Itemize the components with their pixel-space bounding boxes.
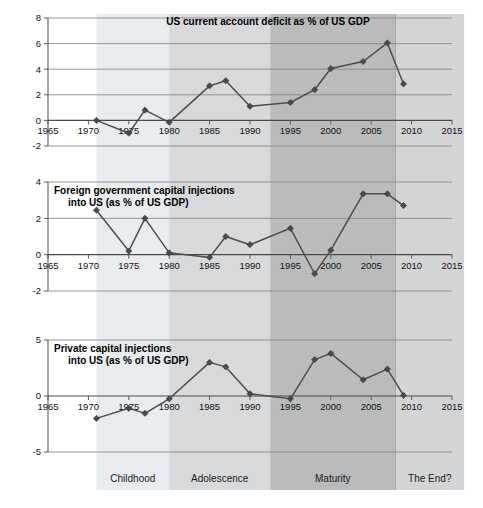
x-tick-label: 2000 bbox=[320, 125, 341, 136]
x-tick-label: 2000 bbox=[320, 401, 341, 412]
x-tick-label: 1965 bbox=[37, 260, 58, 271]
y-tick-label: -2 bbox=[33, 285, 41, 296]
x-tick-label: 1995 bbox=[280, 401, 301, 412]
x-tick-label: 1980 bbox=[159, 125, 180, 136]
x-tick-label: 2005 bbox=[361, 260, 382, 271]
x-tick-label: 2015 bbox=[441, 260, 462, 271]
chart-title-panel-3-line-1: Private capital injections bbox=[54, 343, 172, 354]
x-tick-label: 2005 bbox=[361, 401, 382, 412]
x-tick-label: 1975 bbox=[118, 260, 139, 271]
chart-title-panel-3-line-2: into US (as % of US GDP) bbox=[68, 355, 189, 366]
x-tick-label: 1990 bbox=[239, 401, 260, 412]
y-tick-label: 0 bbox=[36, 115, 41, 126]
y-tick-label: 8 bbox=[36, 12, 41, 23]
chart-canvas: -202468196519701975198019851990199520002… bbox=[0, 0, 483, 508]
x-tick-label: 2015 bbox=[441, 125, 462, 136]
stacked-line-chart-figure: -202468196519701975198019851990199520002… bbox=[0, 0, 483, 508]
y-tick-label: 4 bbox=[36, 64, 41, 75]
x-tick-label: 1985 bbox=[199, 125, 220, 136]
x-tick-label: 1965 bbox=[37, 401, 58, 412]
y-tick-label: -5 bbox=[33, 446, 41, 457]
y-tick-label: 4 bbox=[36, 176, 41, 187]
x-tick-label: 1995 bbox=[280, 125, 301, 136]
x-tick-label: 1985 bbox=[199, 401, 220, 412]
x-tick-label: 1970 bbox=[78, 401, 99, 412]
era-band-maturity bbox=[270, 14, 395, 490]
x-tick-label: 2010 bbox=[401, 401, 422, 412]
x-tick-label: 1995 bbox=[280, 260, 301, 271]
era-band-label-the-end: The End? bbox=[408, 473, 452, 484]
era-band-the-end bbox=[395, 14, 464, 490]
x-tick-label: 1980 bbox=[159, 260, 180, 271]
x-tick-label: 1985 bbox=[199, 260, 220, 271]
era-band-adolescence bbox=[169, 14, 270, 490]
x-tick-label: 2010 bbox=[401, 260, 422, 271]
era-band-childhood bbox=[96, 14, 169, 490]
y-tick-label: 2 bbox=[36, 213, 41, 224]
x-tick-label: 1990 bbox=[239, 125, 260, 136]
era-band-label-adolescence: Adolescence bbox=[191, 473, 249, 484]
x-tick-label: 2015 bbox=[441, 401, 462, 412]
x-tick-label: 1970 bbox=[78, 125, 99, 136]
era-bands-group bbox=[96, 14, 464, 490]
era-band-label-maturity: Maturity bbox=[315, 473, 351, 484]
x-tick-label: 1970 bbox=[78, 260, 99, 271]
x-tick-label: 1965 bbox=[37, 125, 58, 136]
y-tick-label: 2 bbox=[36, 89, 41, 100]
x-tick-label: 2010 bbox=[401, 125, 422, 136]
chart-title-panel-1: US current account deficit as % of US GD… bbox=[166, 16, 370, 27]
y-tick-label: 6 bbox=[36, 38, 41, 49]
y-tick-label: -2 bbox=[33, 140, 41, 151]
x-tick-label: 2005 bbox=[361, 125, 382, 136]
chart-title-panel-2-line-1: Foreign government capital injections bbox=[54, 185, 235, 196]
x-tick-label: 1990 bbox=[239, 260, 260, 271]
y-tick-label: 0 bbox=[36, 249, 41, 260]
y-tick-label: 5 bbox=[36, 334, 41, 345]
chart-title-panel-2-line-2: into US (as % of US GDP) bbox=[68, 197, 189, 208]
y-tick-label: 0 bbox=[36, 390, 41, 401]
era-band-label-childhood: Childhood bbox=[110, 473, 155, 484]
